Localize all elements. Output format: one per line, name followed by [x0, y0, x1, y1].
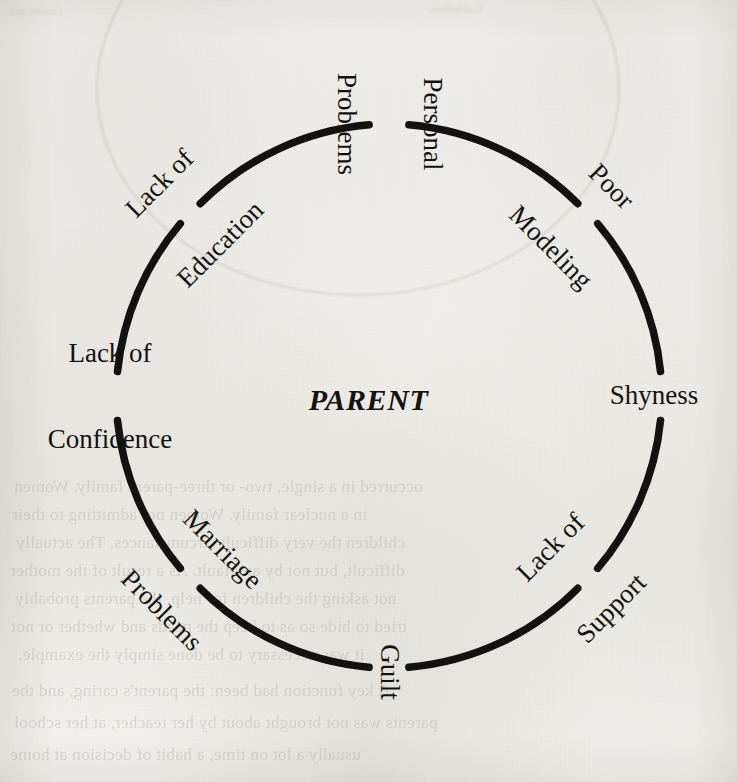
node-line-1: Lack of: [48, 339, 172, 368]
node-line-1: Lack of: [111, 135, 209, 233]
node-label-personal-problems: Personal Problems: [275, 73, 504, 175]
node-line-2: Education: [172, 196, 270, 294]
node-line-1: Lack of: [510, 507, 591, 588]
node-label-guilt: Guilt: [320, 644, 458, 700]
node-line-2: Problems: [115, 564, 207, 656]
node-line-1: Personal: [418, 73, 447, 175]
node-line-1: Marriage: [176, 503, 268, 595]
node-line-1: Guilt: [375, 644, 403, 700]
node-line-2: Confidence: [48, 425, 172, 454]
scanned-book-page: Guidelines Guidelines occurred in a sing…: [0, 0, 737, 782]
node-line-2: Problems: [332, 73, 361, 175]
node-line-2: Support: [571, 568, 652, 649]
node-line-2: Modeling: [503, 200, 597, 294]
center-label-parent: PARENT: [0, 383, 737, 417]
node-line-1: Poor: [564, 139, 658, 233]
cycle-diagram: Personal Problems Poor Modeling Shyness …: [0, 0, 737, 782]
